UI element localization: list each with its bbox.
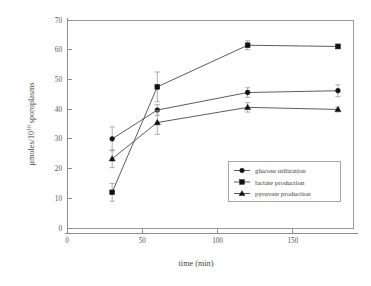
data-point-triangle bbox=[245, 104, 251, 109]
y-axis: 010203040506070 bbox=[55, 17, 72, 233]
series-line bbox=[112, 107, 338, 158]
y-tick-label: 60 bbox=[55, 46, 63, 54]
chart-legend: glucose utilizationlactate productionpyr… bbox=[228, 161, 340, 201]
x-tick-label: 150 bbox=[287, 237, 298, 245]
legend-label: lactate production bbox=[255, 179, 305, 186]
line-chart-canvas: 010203040506070 050100150 glucose utiliz… bbox=[0, 0, 371, 286]
x-tick-label: 0 bbox=[65, 237, 69, 245]
x-tick-label: 100 bbox=[212, 237, 223, 245]
y-tick-label: 20 bbox=[55, 165, 63, 173]
legend-label: glucose utilization bbox=[255, 167, 306, 174]
x-tick-label: 50 bbox=[139, 237, 147, 245]
data-point-square bbox=[110, 190, 115, 195]
x-axis-ticks: 050100150 bbox=[65, 228, 298, 245]
y-axis-ticks: 010203040506070 bbox=[55, 17, 72, 233]
y-tick-label: 0 bbox=[58, 225, 62, 233]
data-point-circle bbox=[245, 90, 250, 95]
data-point-circle bbox=[110, 136, 115, 141]
y-tick-label: 50 bbox=[55, 76, 63, 84]
legend-marker-circle bbox=[240, 168, 245, 173]
y-tick-label: 40 bbox=[55, 106, 63, 114]
x-axis: 050100150 bbox=[65, 228, 358, 245]
data-point-square bbox=[155, 84, 160, 89]
y-axis-title-prefix: µmoles/10 bbox=[27, 131, 36, 166]
svg-text:µmoles/1010 sporoplasms: µmoles/1010 sporoplasms bbox=[26, 82, 36, 165]
legend-marker-square bbox=[240, 180, 245, 185]
y-tick-label: 10 bbox=[55, 195, 63, 203]
data-point-square bbox=[336, 44, 341, 49]
legend-label: pyruvate production bbox=[255, 190, 311, 197]
y-tick-label: 30 bbox=[55, 135, 63, 143]
x-axis-title: time (min) bbox=[179, 259, 214, 268]
y-axis-title-suffix: sporoplasms bbox=[27, 82, 36, 125]
chart-figure: 010203040506070 050100150 glucose utiliz… bbox=[0, 0, 371, 286]
data-point-square bbox=[245, 43, 250, 48]
y-axis-title: µmoles/1010 sporoplasms bbox=[26, 82, 36, 165]
y-tick-label: 70 bbox=[55, 17, 63, 25]
data-point-circle bbox=[336, 88, 341, 93]
series-pyruvate-production bbox=[109, 103, 341, 168]
